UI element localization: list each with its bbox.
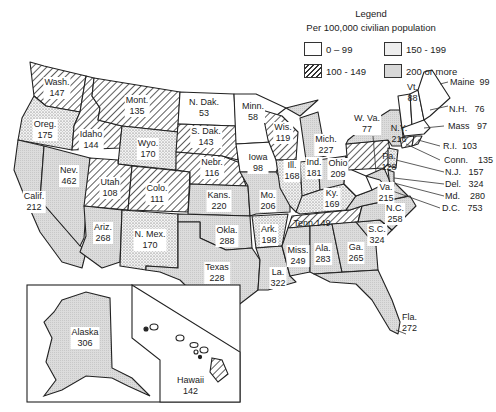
label-nev: Nev.462 xyxy=(59,165,79,187)
us-choropleth-map: Legend Per 100,000 civilian population 0… xyxy=(0,0,496,412)
label-conn: Conn. 135 xyxy=(444,155,493,166)
label-ky: Ky.169 xyxy=(323,188,340,210)
label-ill: Ill.168 xyxy=(283,160,300,182)
label-del: Del. 324 xyxy=(445,179,484,190)
legend-swatch-hatch xyxy=(304,64,322,78)
label-kans: Kans.220 xyxy=(206,190,231,212)
label-wva: W. Va.77 xyxy=(353,113,381,135)
label-nebr: Nebr.116 xyxy=(200,157,224,179)
label-ga: Ga.265 xyxy=(347,242,364,264)
label-va: Va.215 xyxy=(377,182,394,204)
label-calif: Calif.212 xyxy=(23,191,46,213)
label-utah: Utah108 xyxy=(99,177,120,199)
label-okla: Okla.288 xyxy=(215,225,238,247)
label-ohio: Ohio209 xyxy=(327,158,348,180)
label-wis: Wis.119 xyxy=(273,122,293,144)
label-oreg: Oreg.175 xyxy=(33,119,58,141)
map-shapes xyxy=(0,0,496,412)
label-tenn: Tenn 149 xyxy=(292,218,331,229)
legend-label: 100 - 149 xyxy=(326,66,366,77)
label-maine: Maine 99 xyxy=(450,77,490,88)
label-ind: Ind.181 xyxy=(305,157,322,179)
label-pa: Pa.128 xyxy=(380,151,397,173)
legend-label: 150 - 199 xyxy=(406,44,446,55)
label-vt: Vt.88 xyxy=(407,82,418,104)
label-ndak: N. Dak.53 xyxy=(188,97,220,119)
label-nh: N.H. 76 xyxy=(449,104,485,115)
label-miss: Miss.249 xyxy=(287,245,310,267)
label-ala: Ala.283 xyxy=(314,243,332,265)
label-mont: Mont.135 xyxy=(125,95,150,117)
label-ariz: Ariz.268 xyxy=(93,222,113,244)
label-sdak: S. Dak.143 xyxy=(190,126,222,148)
label-sc: S.C.324 xyxy=(367,224,387,246)
label-ri: R.I. 103 xyxy=(443,141,477,152)
label-mo: Mo.206 xyxy=(259,190,276,212)
label-nj: N.J. 157 xyxy=(445,167,484,178)
label-mich: Mich.227 xyxy=(314,134,338,156)
label-minn: Minn.58 xyxy=(241,101,265,123)
legend-label: 200 or more xyxy=(406,66,457,77)
legend-swatch-shaded xyxy=(384,64,402,78)
label-dc: D.C. 753 xyxy=(442,203,483,214)
label-hawaii: Hawaii142 xyxy=(177,375,204,397)
label-mass: Mass 97 xyxy=(448,121,487,132)
label-idaho: Idaho144 xyxy=(79,129,104,151)
legend-title: Legend xyxy=(296,8,446,19)
legend-swatch-blank xyxy=(304,42,322,56)
state-fla xyxy=(314,270,400,334)
label-ark: Ark.198 xyxy=(260,224,278,246)
label-ny: N.Y.216 xyxy=(390,123,408,145)
label-wash: Wash.147 xyxy=(43,77,70,99)
label-nc: N.C.258 xyxy=(385,203,405,225)
label-fla: Fla.272 xyxy=(402,312,417,334)
legend-label: 0 – 99 xyxy=(326,44,352,55)
label-md: Md. 280 xyxy=(445,191,485,202)
label-colo: Colo.111 xyxy=(145,183,168,205)
label-iowa: Iowa98 xyxy=(247,152,268,174)
label-texas: Texas228 xyxy=(204,262,230,284)
legend-subtitle: Per 100,000 civilian population xyxy=(276,22,466,33)
label-la: La.322 xyxy=(269,267,286,289)
label-alaska: Alaska306 xyxy=(70,327,99,349)
label-wyo: Wyo.170 xyxy=(137,138,159,160)
legend-swatch-dots xyxy=(384,42,402,56)
state-maine xyxy=(418,70,450,120)
label-nmex: N. Mex.170 xyxy=(133,229,166,251)
